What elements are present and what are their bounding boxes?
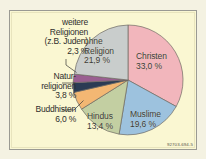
slice-label-ohne-religion: ohne Religion 21,9 % [84, 37, 126, 66]
slice-value: 33,0 % [136, 62, 184, 72]
source-code-label: 92703-694-5 [167, 142, 193, 147]
slice-value: 13,4 % [87, 122, 127, 132]
pie-chart-figure: weitere Religionen (z.B. Juden) 2,3 % Na… [0, 0, 206, 159]
slice-value: 19,6 % [130, 120, 174, 130]
slice-label-weitere-religionen: weitere Religionen (z.B. Juden) 2,3 % [14, 18, 88, 56]
slice-value: 21,9 % [84, 56, 126, 66]
slice-value: 3,8 % [12, 91, 76, 101]
slice-label-buddhisten: Buddhisten 6,0 % [8, 105, 76, 124]
slice-value: 2,3 % [14, 47, 88, 57]
slice-label-muslime: Muslime 19,6 % [130, 110, 174, 129]
slice-value: 6,0 % [8, 115, 76, 125]
slice-label-christen: Christen 33,0 % [136, 52, 184, 71]
slice-label-naturreligionen: Natur- religionen 3,8 % [12, 72, 76, 101]
slice-label-hindus: Hindus 13,4 % [87, 112, 127, 131]
